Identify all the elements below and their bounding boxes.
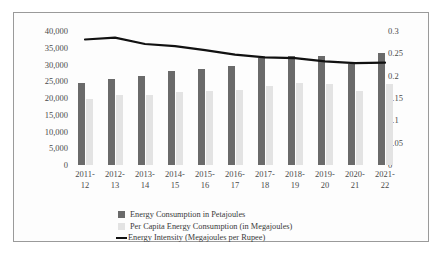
- bar-group: [130, 31, 160, 165]
- bar-groups: [70, 31, 400, 165]
- y-axis-left-tick: 30,000: [45, 60, 68, 69]
- legend-item-label: Energy Intensity (Megajoules per Rupee): [128, 232, 265, 244]
- legend-item[interactable]: Energy Consumption in Petajoules: [118, 209, 292, 221]
- x-axis-tick-label: 2017-18: [250, 169, 280, 190]
- bar-energy-consumption: [78, 83, 85, 165]
- bar-group: [160, 31, 190, 165]
- y-axis-left-tick: 15,000: [45, 111, 68, 120]
- bar-per-capita-consumption: [146, 95, 153, 165]
- bar-energy-consumption: [378, 53, 385, 165]
- bar-per-capita-consumption: [176, 92, 183, 165]
- bar-per-capita-consumption: [266, 86, 273, 165]
- bar-energy-consumption: [318, 56, 325, 165]
- bar-group: [190, 31, 220, 165]
- x-axis-tick-label: 2014-15: [160, 169, 190, 190]
- bar-per-capita-consumption: [206, 91, 213, 165]
- bar-group: [370, 31, 400, 165]
- x-axis-labels: 2011-122012-132013-142014-152015-162016-…: [70, 169, 400, 190]
- bar-group: [340, 31, 370, 165]
- bar-per-capita-consumption: [326, 84, 333, 165]
- y-axis-left-tick: 25,000: [45, 77, 68, 86]
- bar-energy-consumption: [258, 58, 265, 165]
- bar-energy-consumption: [138, 76, 145, 165]
- bar-group: [220, 31, 250, 165]
- bar-energy-consumption: [198, 69, 205, 165]
- x-axis-tick-label: 2020-21: [340, 169, 370, 190]
- bar-group: [310, 31, 340, 165]
- chart-container: 40,00035,00030,00025,00020,00015,00010,0…: [13, 12, 429, 242]
- y-axis-left-tick: 10,000: [45, 127, 68, 136]
- x-axis-tick-label: 2019-20: [310, 169, 340, 190]
- y-axis-left-tick: 5,000: [49, 144, 68, 153]
- x-axis-tick-label: 2018-19: [280, 169, 310, 190]
- y-axis-left-tick: 20,000: [45, 94, 68, 103]
- bar-per-capita-consumption: [86, 99, 93, 165]
- x-axis-tick-label: 2013-14: [130, 169, 160, 190]
- legend-item[interactable]: Energy Intensity (Megajoules per Rupee): [118, 232, 292, 244]
- bar-group: [280, 31, 310, 165]
- bar-energy-consumption: [228, 66, 235, 165]
- bar-per-capita-consumption: [386, 84, 393, 165]
- y-axis-left-tick: 0: [64, 161, 68, 170]
- legend-item-label: Per Capita Energy Consumption (in Megajo…: [130, 221, 292, 233]
- x-axis-tick-label: 2021-22: [370, 169, 400, 190]
- legend-item[interactable]: Per Capita Energy Consumption (in Megajo…: [118, 221, 292, 233]
- x-axis-tick-label: 2011-12: [70, 169, 100, 190]
- bar-energy-consumption: [168, 71, 175, 165]
- bar-group: [250, 31, 280, 165]
- legend-swatch-icon: [118, 211, 125, 218]
- legend-line-icon: [116, 237, 127, 240]
- y-axis-left-tick: 40,000: [45, 27, 68, 36]
- bar-energy-consumption: [108, 79, 115, 165]
- bar-group: [70, 31, 100, 165]
- chart-legend: Energy Consumption in PetajoulesPer Capi…: [118, 209, 292, 244]
- bar-energy-consumption: [288, 56, 295, 165]
- bar-per-capita-consumption: [296, 83, 303, 165]
- bar-per-capita-consumption: [116, 95, 123, 165]
- legend-swatch-icon: [118, 223, 125, 230]
- bar-energy-consumption: [348, 64, 355, 165]
- x-axis-tick-label: 2015-16: [190, 169, 220, 190]
- legend-item-label: Energy Consumption in Petajoules: [130, 209, 245, 221]
- plot-area: [70, 31, 400, 165]
- x-axis-tick-label: 2016-17: [220, 169, 250, 190]
- bar-per-capita-consumption: [236, 90, 243, 165]
- bar-per-capita-consumption: [356, 91, 363, 165]
- x-axis-tick-label: 2012-13: [100, 169, 130, 190]
- y-axis-left-tick: 35,000: [45, 44, 68, 53]
- bar-group: [100, 31, 130, 165]
